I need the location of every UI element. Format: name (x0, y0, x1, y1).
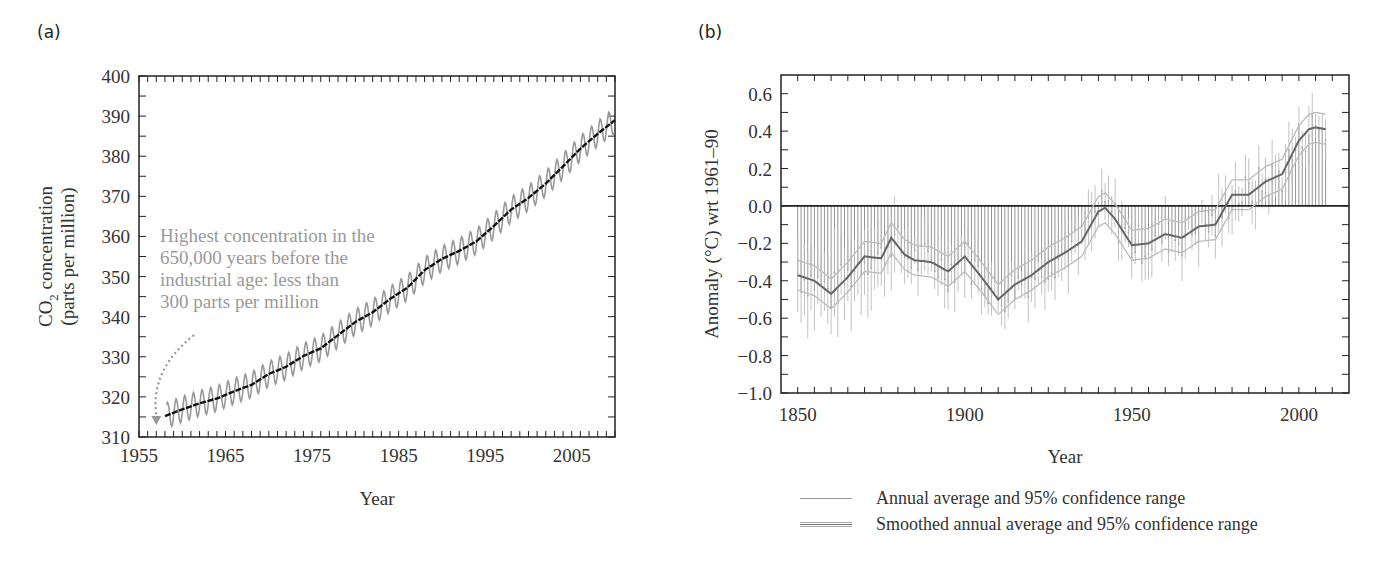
y-tick-label: 0.0 (748, 196, 772, 217)
x-tick-label: 1950 (1113, 404, 1151, 425)
legend-label-annual: Annual average and 95% confidence range (876, 488, 1185, 509)
x-tick-label: 1850 (779, 404, 817, 425)
y-tick-label: 0.6 (748, 84, 772, 105)
legend-label-smoothed: Smoothed annual average and 95% confiden… (876, 514, 1258, 535)
x-tick-label: 2000 (1280, 404, 1318, 425)
y-axis-title: Anomaly (°C) wrt 1961–90 (701, 129, 723, 339)
y-tick-label: 0.2 (748, 159, 772, 180)
legend-item-smoothed: Smoothed annual average and 95% confiden… (800, 511, 1258, 537)
x-tick-label: 1900 (946, 404, 984, 425)
y-tick-label: −1.0 (738, 383, 772, 404)
temperature-anomaly-chart: −1.0−0.8−0.6−0.4−0.20.00.20.40.618501900… (0, 0, 1378, 568)
legend-item-annual: Annual average and 95% confidence range (800, 485, 1258, 511)
y-tick-label: −0.6 (738, 308, 772, 329)
anomaly-plot: −1.0−0.8−0.6−0.4−0.20.00.20.40.618501900… (701, 75, 1349, 467)
y-tick-label: −0.2 (738, 233, 772, 254)
y-tick-label: −0.8 (738, 346, 772, 367)
legend-swatch-single-line (800, 493, 852, 503)
legend-swatch-double-line (800, 519, 852, 529)
y-tick-label: 0.4 (748, 121, 772, 142)
annual-bars (797, 93, 1327, 339)
x-axis-title: Year (1047, 446, 1083, 467)
y-tick-label: −0.4 (738, 271, 773, 292)
legend: Annual average and 95% confidence range … (800, 485, 1258, 537)
